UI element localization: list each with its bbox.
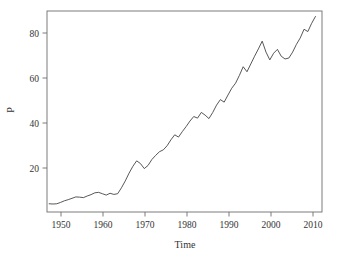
x-tick-label-2000: 2000 — [262, 220, 281, 230]
x-axis-title: Time — [175, 239, 196, 250]
line-chart-canvas: 80 60 40 20 1950 1960 1970 1980 1990 200… — [0, 0, 338, 260]
x-tick-label-1970: 1970 — [136, 220, 155, 230]
y-tick-label-60: 60 — [30, 74, 40, 84]
x-tick-label-1960: 1960 — [94, 220, 113, 230]
x-tick-label-1980: 1980 — [178, 220, 197, 230]
y-tick-label-20: 20 — [30, 164, 40, 174]
y-tick-label-40: 40 — [30, 119, 40, 129]
y-tick-label-80: 80 — [30, 29, 40, 39]
x-tick-label-2010: 2010 — [304, 220, 323, 230]
y-axis-title: P — [5, 107, 16, 113]
chart-figure: 80 60 40 20 1950 1960 1970 1980 1990 200… — [0, 0, 338, 260]
x-tick-label-1950: 1950 — [52, 220, 71, 230]
x-tick-label-1990: 1990 — [220, 220, 239, 230]
